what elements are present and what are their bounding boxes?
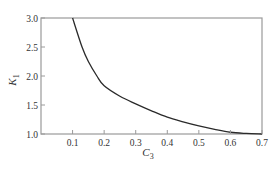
plot-border	[41, 18, 262, 134]
x-tick-label: 0.7	[256, 138, 268, 148]
y-tick-label: 2.0	[26, 72, 38, 82]
chart: 0.10.20.30.40.50.60.7 1.01.52.02.53.0 C3…	[0, 0, 278, 170]
x-tick-label: 0.2	[98, 138, 110, 148]
y-tick-label: 1.0	[26, 130, 38, 140]
y-tick-label: 3.0	[26, 14, 38, 24]
x-tick-label: 0.4	[161, 138, 173, 148]
y-axis-label: K1	[6, 74, 21, 86]
x-tick-label: 0.3	[130, 138, 142, 148]
y-axis-ticks: 1.01.52.02.53.0	[26, 14, 45, 140]
x-axis-label: C3	[142, 146, 153, 161]
x-tick-label: 0.6	[224, 138, 236, 148]
plot-frame	[41, 18, 262, 134]
y-tick-label: 1.5	[26, 101, 38, 111]
curve-line	[73, 18, 262, 134]
x-tick-label: 0.5	[193, 138, 205, 148]
curve-k1-vs-c3	[73, 18, 262, 134]
y-tick-label: 2.5	[26, 43, 38, 53]
x-tick-label: 0.1	[67, 138, 79, 148]
